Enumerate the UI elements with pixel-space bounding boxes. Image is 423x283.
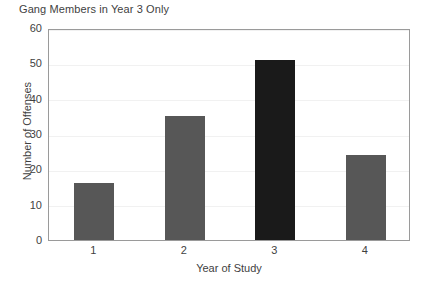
chart-title: Gang Members in Year 3 Only [19, 3, 169, 16]
y-axis-tick-label: 40 [8, 94, 42, 105]
plot-inner [49, 30, 409, 240]
gridline [49, 30, 409, 31]
y-axis-tick-label: 20 [8, 164, 42, 175]
gridline [49, 65, 409, 66]
y-axis-tick-label: 10 [8, 200, 42, 211]
x-axis-tick-label: 2 [164, 244, 204, 256]
bar-chart: Gang Members in Year 3 Only Number of Of… [0, 0, 423, 283]
y-axis-tick-label: 50 [8, 58, 42, 69]
y-axis-tick-label: 60 [8, 23, 42, 34]
x-axis-tick-label: 3 [254, 244, 294, 256]
gridline [49, 100, 409, 101]
bar-3 [255, 60, 295, 240]
x-axis-title: Year of Study [48, 262, 410, 275]
gridline [49, 136, 409, 137]
y-axis-tick-label: 30 [8, 129, 42, 140]
y-axis-tick-label: 0 [8, 235, 42, 246]
bar-4 [346, 155, 386, 240]
bar-1 [74, 183, 114, 240]
x-axis-tick-labels: 1234 [48, 244, 410, 258]
x-axis-tick-label: 1 [73, 244, 113, 256]
y-axis-tick-labels: 0102030405060 [0, 29, 42, 241]
bar-2 [165, 116, 205, 240]
plot-area [48, 29, 410, 241]
x-axis-tick-label: 4 [345, 244, 385, 256]
